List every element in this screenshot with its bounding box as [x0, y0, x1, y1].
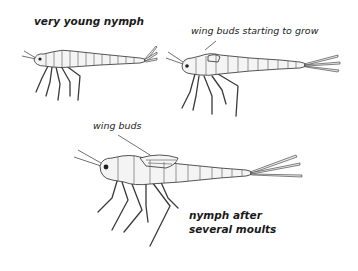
- label-very-young-nymph: very young nymph: [34, 15, 144, 27]
- nymph-illustrations: [0, 0, 358, 271]
- growing-nymph-drawing: [166, 41, 340, 116]
- diagram-canvas: very young nymph wing buds starting to g…: [0, 0, 358, 271]
- label-nymph-after-line1: nymph after: [189, 209, 262, 221]
- label-nymph-after-line2: several moults: [189, 223, 276, 235]
- callout-wing-buds: wing buds: [93, 121, 142, 132]
- callout-wing-buds-starting: wing buds starting to grow: [191, 26, 318, 37]
- very-young-nymph-drawing: [22, 46, 157, 100]
